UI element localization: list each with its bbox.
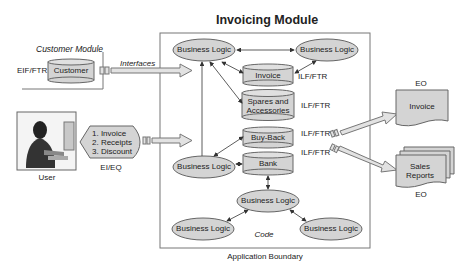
ei-eq-label: EI/EQ [100, 164, 121, 172]
sales-line: Sales [406, 162, 434, 171]
eo-label-sales: EO [415, 191, 427, 199]
diagram-graphics [0, 0, 472, 272]
input-item: 3. Discount [92, 147, 132, 156]
customer-store-label: Customer [54, 67, 89, 75]
eo-label-invoice: EO [415, 80, 427, 88]
sales-reports-label: Sales Reports [406, 162, 434, 180]
business-logic-label: Business Logic [304, 225, 358, 233]
module-title: Invoicing Module [216, 14, 318, 27]
bank-store-label: Bank [259, 160, 277, 168]
ilf-label-invoice: ILF/FTR [298, 73, 327, 81]
spares-store-label: Spares and Accessories [246, 97, 289, 115]
output-arrow-invoice [330, 112, 397, 137]
ilf-label-bank: ILF/FTR [301, 149, 330, 157]
ilf-label-spares: ILF/FTR [301, 102, 330, 110]
user-label: User [39, 174, 56, 182]
reports-line: Reports [406, 171, 434, 180]
eif-label: EIF/FTR [17, 67, 47, 75]
input-item: 2. Receipts [92, 138, 132, 147]
output-arrow-sales [330, 144, 397, 172]
invoice-document-label: Invoice [409, 103, 434, 111]
user-inputs-list: 1. Invoice 2. Receipts 3. Discount [92, 129, 132, 157]
business-logic-label: Business Logic [177, 163, 231, 171]
input-item: 1. Invoice [92, 129, 132, 138]
business-logic-label: Business Logic [241, 197, 295, 205]
accessories-line: Accessories [246, 106, 289, 115]
customer-module-title: Customer Module [36, 45, 103, 54]
business-logic-label: Business Logic [176, 225, 230, 233]
ilf-label-buyback: ILF/FTR [301, 130, 330, 138]
business-logic-label: Business Logic [300, 46, 354, 54]
interfaces-label: Interfaces [120, 60, 155, 68]
ei-arrow [143, 134, 192, 147]
code-label: Code [254, 231, 273, 239]
application-boundary-label: Application Boundary [227, 253, 303, 261]
invoice-store-label: Invoice [255, 72, 280, 80]
invoicing-module-diagram: Invoicing Module Customer Module EIF/FTR… [0, 0, 472, 272]
spares-line: Spares and [246, 97, 289, 106]
buyback-store-label: Buy-Back [251, 134, 285, 142]
business-logic-label: Business Logic [177, 46, 231, 54]
user-image [17, 112, 76, 170]
